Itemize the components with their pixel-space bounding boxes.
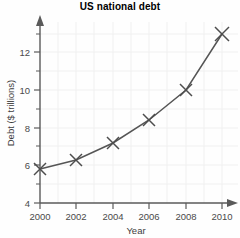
y-axis-title: Debt ($ trillions): [5, 80, 16, 147]
y-axis-ticks-major: [34, 52, 40, 203]
y-tick-label: 8: [25, 123, 30, 134]
gridlines-vertical: [58, 22, 222, 203]
x-tick-label: 2006: [138, 211, 159, 222]
x-tick-label: 2002: [65, 211, 86, 222]
y-axis-arrow-icon: [36, 15, 44, 26]
x-tick-label: 2004: [102, 211, 123, 222]
x-axis: [40, 199, 238, 207]
x-axis-ticks-major: [40, 203, 222, 209]
chart-container: US national debt: [0, 0, 240, 238]
x-axis-arrow-icon: [227, 199, 238, 207]
y-tick-label: 10: [19, 85, 30, 96]
y-tick-label: 6: [25, 160, 30, 171]
x-tick-label: 2000: [29, 211, 50, 222]
chart-plot-area: 4 6 8 10 12 2000 2002 2004 2006 2008 201…: [0, 0, 240, 238]
y-tick-label: 12: [19, 47, 30, 58]
x-axis-tick-labels: 2000 2002 2004 2006 2008 2010: [29, 211, 232, 222]
y-axis-tick-labels: 4 6 8 10 12: [19, 47, 30, 209]
x-tick-label: 2010: [211, 211, 232, 222]
x-tick-label: 2008: [175, 211, 196, 222]
x-axis-title: Year: [126, 225, 145, 236]
y-tick-label: 4: [25, 198, 30, 209]
